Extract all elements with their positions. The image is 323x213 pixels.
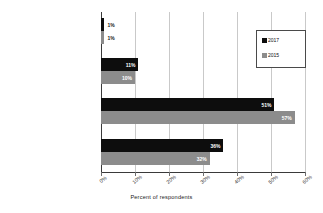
x-tick-label-20: 20% (165, 174, 177, 185)
legend-item-2017: 2017 (262, 38, 279, 43)
legend-item-2015: 2015 (262, 53, 279, 58)
x-tick-label-0: 0% (98, 175, 108, 184)
bar-value-2015-2: 57% (282, 115, 292, 121)
bar-2015-1: 10% (101, 71, 135, 84)
legend-label-2017: 2017 (268, 38, 279, 43)
bar-value-2017-2: 51% (261, 102, 271, 108)
bar-value-2017-3: 36% (210, 143, 220, 149)
bar-2015-3: 32% (101, 152, 210, 165)
bar-value-2017-1: 11% (126, 62, 136, 68)
x-axis-title: Percent of respondents (0, 194, 323, 200)
x-tick-label-50: 50% (267, 174, 279, 185)
bar-2015-2: 57% (101, 111, 295, 124)
bar-2015-0: 1% (101, 31, 104, 44)
bar-value-2015-1: 10% (122, 75, 132, 81)
bar-value-2017-0: 1% (107, 22, 114, 28)
legend-label-2015: 2015 (268, 53, 279, 58)
x-tick-label-10: 10% (131, 174, 143, 185)
x-tick-label-60: 60% (301, 174, 313, 185)
legend-swatch-icon-2015 (262, 53, 267, 58)
bar-chart: 0% 10% 20% 30% 40% 50% 60% Increased thr… (0, 0, 323, 213)
bar-value-2015-3: 32% (197, 156, 207, 162)
legend-swatch-icon-2017 (262, 38, 267, 43)
bar-2017-0: 1% (101, 18, 104, 31)
bar-2017-3: 36% (101, 139, 223, 152)
gridline-40 (237, 12, 238, 172)
bar-2017-2: 51% (101, 98, 274, 111)
x-tick-label-30: 30% (199, 174, 211, 185)
x-tick-label-40: 40% (233, 174, 245, 185)
bar-2017-1: 11% (101, 58, 138, 71)
legend: 2017 2015 (256, 30, 306, 68)
bar-value-2015-0: 1% (107, 35, 114, 41)
